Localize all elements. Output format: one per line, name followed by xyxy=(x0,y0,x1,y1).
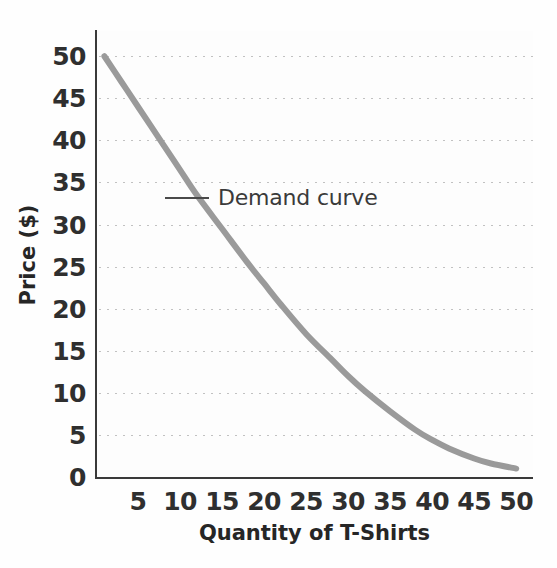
x-axis-title: Quantity of T-Shirts xyxy=(96,521,533,545)
plot-area xyxy=(96,31,533,477)
y-axis-tick-label: 35 xyxy=(40,170,86,195)
leader-line-icon xyxy=(165,197,209,199)
y-axis-title: Price ($) xyxy=(16,190,40,320)
demand-curve-line xyxy=(104,56,516,468)
x-axis-spine xyxy=(95,477,533,479)
demand-curve-figure: 05101520253035404550 5101520253035404550… xyxy=(0,0,557,568)
y-axis-tick-label: 45 xyxy=(40,86,86,111)
x-axis-tick-labels: 5101520253035404550 xyxy=(96,489,533,521)
y-axis-tick-label: 0 xyxy=(40,465,86,490)
y-axis-tick-label: 50 xyxy=(40,44,86,69)
y-axis-tick-label: 40 xyxy=(40,128,86,153)
y-axis-tick-label: 25 xyxy=(40,254,86,279)
demand-curve-plot xyxy=(96,31,533,477)
y-axis-tick-labels: 05101520253035404550 xyxy=(34,31,86,477)
y-axis-tick-label: 20 xyxy=(40,296,86,321)
y-axis-tick-label: 15 xyxy=(40,338,86,363)
y-axis-tick-label: 30 xyxy=(40,212,86,237)
y-axis-tick-label: 5 xyxy=(40,422,86,447)
cut-off-caption-text xyxy=(110,0,450,6)
demand-curve-annotation: Demand curve xyxy=(165,185,378,210)
annotation-label: Demand curve xyxy=(218,185,378,210)
y-axis-tick-label: 10 xyxy=(40,380,86,405)
x-axis-tick-label: 50 xyxy=(486,489,546,514)
y-axis-spine xyxy=(95,30,97,479)
